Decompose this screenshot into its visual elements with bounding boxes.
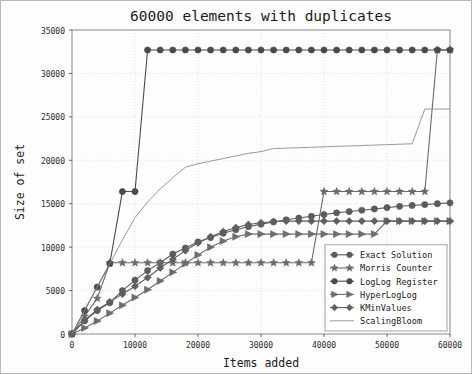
data-point-marker bbox=[345, 187, 353, 195]
data-point-marker bbox=[396, 187, 404, 195]
data-point-marker bbox=[447, 47, 453, 53]
data-point-marker bbox=[397, 47, 403, 53]
data-point-marker bbox=[334, 47, 340, 53]
data-point-marker bbox=[296, 231, 303, 238]
data-point-marker bbox=[409, 202, 415, 208]
data-point-marker bbox=[383, 187, 391, 195]
data-point-marker bbox=[270, 259, 278, 267]
data-point-marker bbox=[346, 217, 353, 224]
data-point-marker bbox=[144, 259, 152, 267]
data-point-marker bbox=[422, 47, 428, 53]
data-point-marker bbox=[308, 231, 315, 238]
chart-window: 60000 elements with duplicates0500010000… bbox=[0, 0, 472, 374]
data-point-marker bbox=[271, 231, 278, 238]
data-point-marker bbox=[408, 187, 416, 195]
data-point-marker bbox=[170, 47, 176, 53]
data-point-marker bbox=[93, 294, 101, 302]
data-point-marker bbox=[333, 217, 340, 224]
data-point-marker bbox=[434, 47, 440, 53]
data-point-marker bbox=[207, 259, 215, 267]
legend-label-kminvalues: KMinValues bbox=[360, 303, 412, 313]
data-point-marker bbox=[334, 231, 341, 238]
legend-label-exact-solution: Exact Solution bbox=[360, 250, 432, 260]
data-point-marker bbox=[220, 238, 227, 245]
data-point-marker bbox=[119, 188, 125, 194]
data-point-marker bbox=[346, 231, 353, 238]
y-tick-label: 35000 bbox=[41, 27, 65, 36]
data-point-marker bbox=[233, 47, 239, 53]
data-point-marker bbox=[257, 259, 265, 267]
data-point-marker bbox=[118, 259, 126, 267]
legend-label-hyperloglog: HyperLogLog bbox=[360, 290, 417, 300]
data-point-marker bbox=[409, 47, 415, 53]
data-point-marker bbox=[296, 47, 302, 53]
data-point-marker bbox=[359, 231, 366, 238]
data-point-marker bbox=[384, 47, 390, 53]
y-tick-label: 0 bbox=[60, 331, 65, 340]
data-point-marker bbox=[132, 294, 139, 301]
data-point-marker bbox=[295, 259, 303, 267]
legend-label-loglog-register: LogLog Register bbox=[360, 277, 438, 287]
data-point-marker bbox=[233, 233, 240, 240]
data-point-marker bbox=[219, 259, 227, 267]
data-point-marker bbox=[334, 210, 340, 216]
data-point-marker bbox=[384, 205, 390, 211]
data-point-marker bbox=[282, 259, 290, 267]
data-point-marker bbox=[157, 47, 163, 53]
data-point-marker bbox=[371, 47, 377, 53]
data-point-marker bbox=[245, 47, 251, 53]
data-point-marker bbox=[131, 259, 139, 267]
data-point-marker bbox=[244, 259, 252, 267]
y-tick-label: 15000 bbox=[41, 200, 65, 209]
data-point-marker bbox=[397, 203, 403, 209]
data-point-marker bbox=[94, 317, 101, 324]
data-point-marker bbox=[208, 47, 214, 53]
data-point-marker bbox=[321, 211, 327, 217]
legend-label-scalingbloom: ScalingBloom bbox=[360, 316, 422, 326]
data-point-marker bbox=[321, 47, 327, 53]
data-point-marker bbox=[194, 259, 202, 267]
data-point-marker bbox=[359, 47, 365, 53]
data-point-marker bbox=[346, 208, 352, 214]
data-point-marker bbox=[333, 187, 341, 195]
data-point-marker bbox=[371, 206, 377, 212]
data-point-marker bbox=[371, 217, 378, 224]
data-point-marker bbox=[434, 201, 440, 207]
line-chart: 60000 elements with duplicates0500010000… bbox=[1, 1, 472, 374]
data-point-marker bbox=[145, 47, 151, 53]
chart-title: 60000 elements with duplicates bbox=[130, 8, 392, 24]
x-tick-label: 20000 bbox=[186, 341, 210, 350]
y-tick-label: 30000 bbox=[41, 70, 65, 79]
data-point-marker bbox=[346, 47, 352, 53]
legend-label-morris-counter: Morris Counter bbox=[360, 263, 432, 273]
data-point-marker bbox=[119, 302, 126, 309]
data-point-marker bbox=[232, 259, 240, 267]
y-tick-label: 10000 bbox=[41, 244, 65, 253]
data-point-marker bbox=[308, 47, 314, 53]
data-point-marker bbox=[132, 188, 138, 194]
data-point-marker bbox=[421, 187, 429, 195]
data-point-marker bbox=[359, 207, 365, 213]
y-tick-label: 25000 bbox=[41, 113, 65, 122]
x-tick-label: 30000 bbox=[249, 341, 273, 350]
data-point-marker bbox=[107, 310, 114, 317]
x-tick-label: 50000 bbox=[375, 341, 399, 350]
data-point-marker bbox=[358, 217, 365, 224]
data-point-marker bbox=[447, 200, 453, 206]
data-point-marker bbox=[358, 187, 366, 195]
data-point-marker bbox=[283, 231, 290, 238]
data-point-marker bbox=[422, 201, 428, 207]
data-point-marker bbox=[145, 267, 151, 273]
x-tick-label: 60000 bbox=[438, 341, 462, 350]
x-axis-title: Items added bbox=[223, 356, 299, 370]
data-point-marker bbox=[195, 47, 201, 53]
data-point-marker bbox=[182, 47, 188, 53]
data-point-marker bbox=[347, 252, 353, 258]
data-point-marker bbox=[283, 47, 289, 53]
y-tick-label: 5000 bbox=[46, 287, 65, 296]
data-point-marker bbox=[220, 47, 226, 53]
y-axis-title: Size of set bbox=[13, 144, 27, 220]
data-point-marker bbox=[332, 278, 338, 284]
data-point-marker bbox=[347, 278, 353, 284]
x-tick-label: 0 bbox=[70, 341, 75, 350]
